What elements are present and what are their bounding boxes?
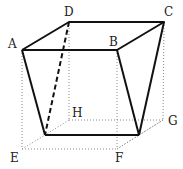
- solid-figure: [0, 0, 183, 169]
- label-a: A: [8, 38, 17, 50]
- geometry-diagram: A D C B H E F G: [0, 0, 183, 169]
- label-b: B: [109, 36, 118, 48]
- label-f: F: [115, 152, 123, 164]
- label-g: G: [168, 115, 178, 127]
- label-h: H: [72, 107, 82, 119]
- label-e: E: [10, 152, 19, 164]
- label-d: D: [64, 6, 74, 18]
- hidden-edge: [45, 22, 69, 135]
- label-c: C: [164, 6, 173, 18]
- solid-edges: [22, 22, 164, 135]
